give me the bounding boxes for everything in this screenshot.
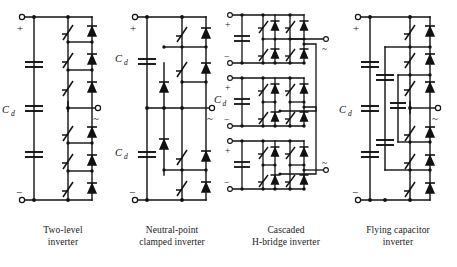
ac-terminal-label: ~	[432, 112, 438, 124]
rail-junction-dots	[32, 15, 70, 202]
clamp-diode-triangle	[160, 140, 168, 149]
clamp-diode-triangle	[160, 83, 168, 92]
junction-dot	[261, 37, 264, 40]
diode-triangle	[426, 83, 434, 92]
diode-triangle	[426, 55, 434, 64]
circuit-neutral-point-clamped: + − C d C d	[113, 0, 231, 218]
caption-line-2: inverter	[8, 236, 118, 248]
junction-dot	[408, 15, 412, 19]
junction-dot	[302, 163, 305, 166]
diode-triangle	[202, 152, 210, 161]
junction-dot	[180, 45, 183, 48]
junction-dot	[383, 198, 387, 202]
diode-triangle	[88, 128, 96, 137]
junction-dot	[261, 76, 264, 79]
caption-line-2: H-bridge inverter	[227, 236, 345, 248]
junction-dot	[145, 198, 149, 202]
diode-triangle	[272, 148, 279, 156]
junction-dot	[368, 15, 372, 19]
caption-neutral-point-clamped: Neutral-point clamped inverter	[113, 224, 231, 248]
circuit-cascaded-h-bridge: + −	[222, 0, 342, 218]
positive-terminal-circle	[355, 14, 360, 19]
junction-dot	[240, 187, 243, 190]
negative-sign-label: −	[352, 186, 358, 198]
junction-dot	[278, 172, 281, 175]
figure-canvas: + − C d	[0, 0, 457, 267]
dc-positive-terminal: +	[130, 14, 138, 34]
diode-triangle	[301, 50, 308, 58]
dc-negative-terminal: −	[352, 186, 361, 203]
dc-capacitor-label-subscript: d	[11, 109, 15, 118]
junction-dot	[66, 15, 70, 19]
negative-terminal-circle	[132, 197, 137, 202]
h-bridge-stage-3: + −	[224, 139, 328, 192]
negative-sign-label: −	[224, 52, 229, 62]
ac-terminal-circle	[95, 105, 100, 110]
inverter-topologies-row: + − C d	[0, 0, 457, 267]
ac-terminal-circle	[435, 105, 440, 110]
leg-a-switches	[258, 21, 280, 61]
junction-dot	[261, 187, 264, 190]
upper-capacitor-label-subscript: d	[124, 58, 128, 67]
junction-dot	[428, 73, 431, 76]
upper-switch-group	[62, 25, 97, 96]
diode-triangle	[301, 22, 308, 30]
lower-capacitor-label: C	[115, 147, 123, 158]
negative-sign-label: −	[129, 186, 135, 198]
caption-line-2: clamped inverter	[113, 236, 231, 248]
junction-dot	[273, 163, 276, 166]
diode-triangle	[272, 22, 279, 30]
junction-dot	[273, 187, 276, 190]
junction-dot	[408, 106, 412, 110]
ac-terminal-circle	[324, 37, 329, 42]
dc-negative-terminal: −	[129, 186, 138, 203]
diode-triangle	[202, 29, 210, 38]
junction-dot	[302, 168, 305, 171]
h-bridge-stage-1: + −	[224, 13, 328, 111]
ac-terminal-label: ~	[322, 44, 327, 54]
junction-dot	[240, 139, 243, 142]
lower-switch-group	[162, 150, 211, 196]
positive-terminal-circle	[228, 76, 233, 81]
diode-triangle	[301, 148, 308, 156]
diode-triangle	[202, 64, 210, 73]
circuit-flying-capacitor: + − C d	[340, 0, 457, 218]
diode-triangle	[272, 50, 279, 58]
leg-a-switches	[258, 147, 280, 187]
junction-dot	[261, 61, 264, 64]
dc-capacitor-label: C	[339, 104, 347, 115]
junction-dot	[180, 80, 183, 83]
positive-sign-label: +	[130, 22, 136, 34]
junction-dot	[240, 76, 243, 79]
junction-dot	[66, 198, 70, 202]
positive-sign-label: +	[225, 83, 230, 93]
leg-b-switches	[285, 21, 309, 61]
junction-dot	[428, 168, 431, 171]
junction-dot	[288, 76, 291, 79]
positive-terminal-circle	[228, 13, 233, 18]
dc-negative-terminal: −	[16, 186, 25, 203]
caption-line-1: Neutral-point	[113, 224, 231, 236]
junction-dot	[408, 73, 411, 76]
junction-dot	[302, 100, 305, 103]
dc-positive-terminal: +	[353, 14, 361, 34]
caption-line-1: Flying capacitor	[343, 224, 453, 236]
junction-dot	[66, 68, 69, 71]
junction-dot	[90, 40, 93, 43]
lower-switch-group	[404, 126, 435, 197]
caption-line-1: Two-level	[8, 224, 118, 236]
upper-switch-group	[162, 27, 211, 84]
positive-terminal-circle	[228, 139, 233, 144]
junction-dot	[32, 198, 36, 202]
junction-dot	[66, 141, 69, 144]
junction-dot	[288, 100, 291, 103]
junction-dot	[32, 15, 36, 19]
dc-capacitor-label: C	[214, 94, 222, 105]
junction-dot	[288, 124, 291, 127]
junction-dot	[66, 40, 69, 43]
junction-dot	[273, 124, 276, 127]
junction-dot	[180, 198, 184, 202]
junction-dot	[408, 45, 411, 48]
junction-dot	[302, 187, 305, 190]
junction-dot	[278, 109, 281, 112]
